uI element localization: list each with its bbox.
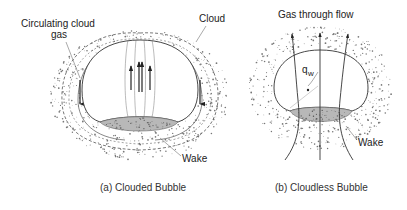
particle-dot bbox=[197, 58, 199, 60]
particle-dot bbox=[189, 130, 190, 131]
particle-dot bbox=[66, 91, 67, 92]
particle-dot bbox=[206, 82, 208, 84]
particle-dot bbox=[337, 129, 339, 131]
particle-dot bbox=[290, 52, 291, 53]
particle-dot bbox=[334, 40, 335, 41]
particle-dot bbox=[271, 131, 272, 132]
particle-dot bbox=[271, 93, 272, 94]
particle-dot bbox=[289, 50, 290, 51]
particle-dot bbox=[287, 136, 288, 137]
particle-dot bbox=[183, 133, 185, 135]
particle-dot bbox=[140, 36, 141, 37]
particle-dot bbox=[379, 73, 380, 74]
particle-dot bbox=[197, 134, 199, 136]
particle-dot bbox=[179, 126, 180, 127]
particle-dot bbox=[351, 116, 352, 117]
particle-dot bbox=[165, 150, 167, 152]
particle-dot bbox=[333, 117, 334, 118]
particle-dot bbox=[379, 88, 380, 89]
particle-dot bbox=[279, 49, 280, 50]
particle-dot bbox=[283, 126, 284, 127]
particle-dot bbox=[121, 156, 122, 157]
particle-dot bbox=[256, 68, 257, 69]
particle-dot bbox=[173, 44, 175, 46]
particle-dot bbox=[156, 152, 157, 153]
particle-dot bbox=[389, 104, 390, 105]
particle-dot bbox=[299, 132, 300, 133]
particle-dot bbox=[109, 128, 110, 129]
particle-dot bbox=[375, 47, 376, 48]
particle-dot bbox=[224, 78, 226, 80]
particle-dot bbox=[274, 59, 275, 60]
particle-dot bbox=[213, 124, 214, 125]
particle-dot bbox=[147, 139, 149, 141]
particle-dot bbox=[106, 143, 108, 145]
particle-dot bbox=[156, 125, 157, 126]
particle-dot bbox=[290, 43, 291, 44]
particle-dot bbox=[58, 87, 59, 88]
particle-dot bbox=[101, 146, 102, 147]
particle-dot bbox=[218, 71, 219, 72]
particle-dot bbox=[207, 63, 208, 64]
particle-dot bbox=[167, 124, 168, 125]
particle-dot bbox=[323, 28, 324, 29]
particle-dot bbox=[369, 127, 370, 128]
particle-dot bbox=[316, 127, 317, 128]
particle-dot bbox=[213, 126, 215, 128]
particle-dot bbox=[122, 153, 123, 154]
particle-dot bbox=[133, 35, 134, 36]
particle-dot bbox=[252, 104, 254, 106]
particle-dot bbox=[222, 82, 223, 83]
particle-dot bbox=[265, 107, 266, 108]
particle-dot bbox=[282, 137, 283, 138]
particle-dot bbox=[357, 120, 359, 122]
particle-dot bbox=[94, 134, 96, 136]
particle-dot bbox=[378, 99, 380, 101]
particle-dot bbox=[153, 139, 154, 140]
particle-dot bbox=[68, 56, 70, 58]
particle-dot bbox=[81, 106, 82, 107]
particle-dot bbox=[262, 123, 263, 124]
particle-dot bbox=[365, 114, 367, 116]
particle-dot bbox=[335, 28, 336, 29]
particle-dot bbox=[57, 78, 59, 80]
particle-dot bbox=[315, 33, 316, 34]
particle-dot bbox=[322, 112, 323, 113]
particle-dot bbox=[54, 101, 55, 102]
label-circulating-cloud-gas-2: gas bbox=[51, 29, 67, 40]
particle-dot bbox=[384, 65, 385, 66]
particle-dot bbox=[209, 53, 211, 55]
particle-dot bbox=[138, 131, 139, 132]
particle-dot bbox=[277, 47, 278, 48]
particle-dot bbox=[165, 35, 166, 36]
particle-dot bbox=[57, 80, 58, 81]
particle-dot bbox=[162, 123, 163, 124]
particle-dot bbox=[187, 40, 188, 41]
particle-dot bbox=[261, 60, 262, 61]
particle-dot bbox=[153, 138, 154, 139]
particle-dot bbox=[304, 120, 305, 121]
particle-dot bbox=[127, 36, 128, 37]
particle-dot bbox=[379, 106, 380, 107]
particle-dot bbox=[373, 103, 374, 104]
particle-dot bbox=[66, 122, 67, 123]
particle-dot bbox=[82, 121, 84, 123]
particle-dot bbox=[286, 136, 287, 137]
particle-dot bbox=[317, 149, 318, 150]
particle-dot bbox=[319, 133, 320, 134]
particle-dot bbox=[211, 100, 212, 101]
particle-dot bbox=[59, 110, 60, 111]
particle-dot bbox=[178, 36, 179, 37]
particle-dot bbox=[159, 37, 160, 38]
particle-dot bbox=[266, 72, 267, 73]
particle-dot bbox=[331, 110, 332, 111]
particle-dot bbox=[265, 48, 267, 50]
particle-dot bbox=[119, 125, 120, 126]
particle-dot bbox=[275, 60, 276, 61]
particle-dot bbox=[73, 85, 74, 86]
particle-dot bbox=[328, 131, 329, 132]
particle-dot bbox=[86, 50, 88, 52]
particle-dot bbox=[375, 91, 376, 92]
particle-dot bbox=[136, 124, 137, 125]
particle-dot bbox=[143, 117, 144, 118]
